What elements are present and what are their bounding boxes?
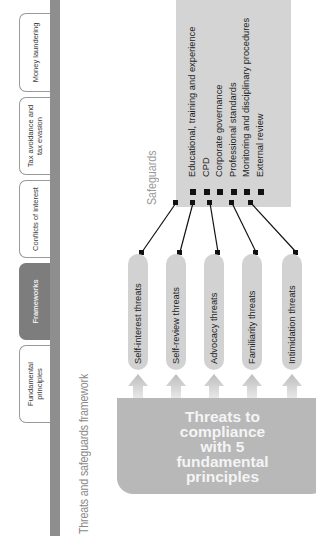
threat-advocacy: Advocacy threats (204, 254, 224, 370)
threats-source-text: Threats to compliance with 5 fundamental… (174, 409, 270, 484)
threat-familiarity: Familiarity threats (242, 254, 262, 370)
threats-source-box: Threats to compliance with 5 fundamental… (117, 398, 316, 494)
threat-self-interest: Self-interest threats (128, 254, 148, 370)
arrow-right-icon (282, 374, 302, 398)
threat-intimidation: Intimidation threats (282, 254, 302, 370)
arrow-right-icon (242, 374, 262, 398)
arrow-right-icon (204, 374, 224, 398)
threat-self-review: Self-review threats (166, 254, 186, 370)
arrow-right-icon (166, 374, 186, 398)
arrow-right-icon (128, 374, 148, 398)
diagram-stage: Fundamental principles Frameworks Confli… (0, 0, 316, 536)
